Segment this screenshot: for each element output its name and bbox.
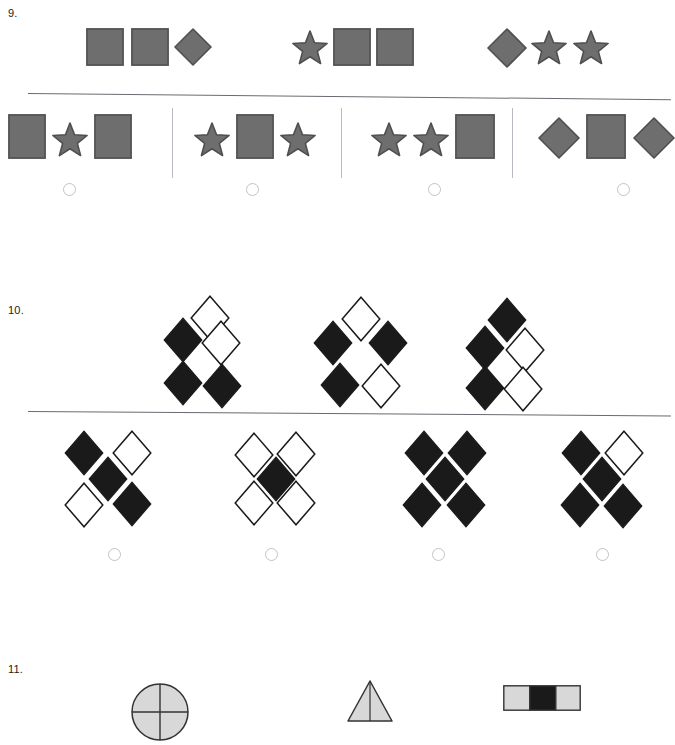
question-number-label: 11. — [8, 664, 23, 675]
prompt-pie-circle — [131, 683, 189, 741]
prompt-triangle — [347, 680, 393, 722]
prompt-striped-bar — [503, 685, 581, 711]
